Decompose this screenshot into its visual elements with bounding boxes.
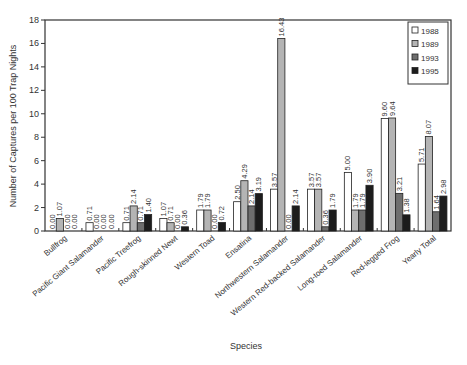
value-label: 1.79: [328, 193, 337, 208]
x-category-label: Northwestern Salamander: [213, 233, 290, 300]
x-category-label: Long-toed Salamander: [296, 233, 364, 292]
value-label: 2.14: [291, 189, 300, 204]
value-label: 5.71: [417, 147, 426, 162]
legend-swatch-1989: [412, 41, 418, 47]
bar-1995: [218, 223, 225, 231]
bar-1988: [271, 189, 278, 231]
bar-1989: [241, 181, 248, 231]
y-tick-label: 18: [29, 15, 39, 25]
bar-chart: 0246810121416180.001.070.000.00Bullfrog0…: [0, 0, 467, 365]
value-label: 0.00: [70, 214, 79, 229]
y-tick-label: 16: [29, 38, 39, 48]
y-tick-label: 0: [34, 226, 39, 236]
y-tick-label: 14: [29, 62, 39, 72]
value-label: 0.36: [180, 210, 189, 225]
value-label: 1.64: [432, 195, 441, 210]
value-label: 3.90: [365, 169, 374, 184]
value-label: 2.14: [129, 189, 138, 204]
value-label: 3.21: [395, 177, 404, 192]
x-category-label: Pacific Giant Salamander: [31, 233, 106, 298]
bar-1993: [433, 212, 440, 231]
y-axis-label: Number of Captures per 100 Trap Nights: [8, 44, 18, 207]
x-category-label: Ensatina: [224, 233, 254, 260]
bar-1995: [403, 215, 410, 231]
bar-1995: [440, 196, 447, 231]
value-label: 0.00: [284, 214, 293, 229]
value-label: 1.07: [55, 202, 64, 217]
value-label: 0.00: [107, 214, 116, 229]
bar-1988: [418, 164, 425, 231]
bar-1995: [329, 210, 336, 231]
y-tick-label: 10: [29, 109, 39, 119]
y-tick-label: 8: [34, 132, 39, 142]
value-label: 2.98: [439, 179, 448, 194]
y-tick-label: 4: [34, 179, 39, 189]
y-tick-label: 6: [34, 156, 39, 166]
value-label: 8.07: [424, 120, 433, 135]
bar-1988: [381, 118, 388, 231]
plot-area: 0246810121416180.001.070.000.00Bullfrog0…: [29, 15, 451, 318]
bar-1993: [137, 223, 144, 231]
legend-label-1995: 1995: [421, 67, 439, 76]
bar-1988: [234, 202, 241, 231]
x-category-label: Yearly Total: [401, 233, 438, 266]
x-axis-label: Species: [230, 341, 263, 351]
value-label: 1.79: [358, 193, 367, 208]
value-label: 1.79: [203, 193, 212, 208]
x-category-label: Bullfrog: [42, 234, 69, 258]
legend-label-1989: 1989: [421, 40, 439, 49]
bar-1995: [292, 206, 299, 231]
bar-1993: [248, 206, 255, 231]
legend-swatch-1988: [412, 27, 418, 33]
x-category-label: Western Toad: [173, 234, 216, 272]
value-label: 0.72: [217, 206, 226, 221]
value-label: 1.40: [144, 198, 153, 213]
value-label: 0.36: [321, 210, 330, 225]
legend-label-1988: 1988: [421, 27, 439, 36]
value-label: 9.64: [388, 101, 397, 116]
legend-swatch-1993: [412, 54, 418, 60]
value-label: 16.43: [277, 18, 286, 37]
value-label: 3.57: [270, 173, 279, 188]
bar-1989: [388, 118, 395, 231]
bar-1988: [307, 189, 314, 231]
bar-1988: [197, 210, 204, 231]
value-label: 1.38: [402, 198, 411, 213]
value-label: 3.19: [254, 177, 263, 192]
bar-1993: [322, 227, 329, 231]
legend: 1988198919931995: [408, 22, 448, 84]
bar-1989: [278, 38, 285, 231]
value-label: 5.00: [343, 156, 352, 171]
value-label: 3.57: [314, 173, 323, 188]
value-label: 2.50: [233, 185, 242, 200]
y-tick-label: 12: [29, 85, 39, 95]
legend-label-1993: 1993: [421, 54, 439, 63]
legend-swatch-1995: [412, 68, 418, 74]
bar-1988: [123, 223, 130, 231]
bar-1995: [366, 185, 373, 231]
bar-1989: [352, 210, 359, 231]
bar-1995: [181, 227, 188, 231]
bar-1995: [255, 194, 262, 231]
bar-1989: [425, 136, 432, 231]
y-tick-label: 2: [34, 203, 39, 213]
bar-1993: [359, 210, 366, 231]
value-label: 4.29: [240, 164, 249, 179]
bar-1995: [144, 215, 151, 231]
value-label: 0.71: [122, 206, 131, 221]
